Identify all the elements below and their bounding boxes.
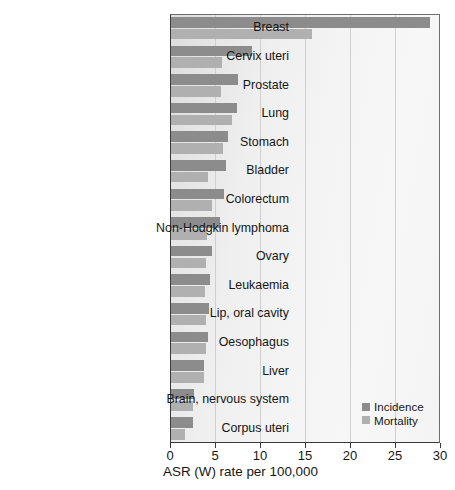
bar-mortality — [170, 372, 204, 383]
bar-group — [170, 43, 440, 72]
category-label: Brain, nervous system — [166, 393, 289, 406]
category-label: Breast — [253, 21, 289, 34]
category-label: Stomach — [240, 136, 289, 149]
bar-mortality — [170, 143, 223, 154]
legend-swatch-mortality — [362, 416, 370, 424]
bar-mortality — [170, 258, 206, 269]
x-tick-label: 15 — [285, 448, 325, 463]
bar-incidence — [170, 131, 228, 142]
bar-mortality — [170, 57, 222, 68]
legend-item-mortality: Mortality — [362, 414, 424, 428]
x-tick-label: 10 — [240, 448, 280, 463]
bar-mortality — [170, 315, 206, 326]
legend-label-mortality: Mortality — [374, 414, 418, 428]
bar-mortality — [170, 29, 312, 40]
bar-mortality — [170, 429, 185, 440]
bar-group — [170, 271, 440, 300]
bar-incidence — [170, 360, 204, 371]
category-label: Ovary — [256, 250, 289, 263]
x-tick-label: 20 — [330, 448, 370, 463]
bar-group — [170, 157, 440, 186]
x-tick-label: 30 — [420, 448, 455, 463]
category-label: Cervix uteri — [226, 50, 289, 63]
category-label: Corpus uteri — [222, 422, 290, 435]
bar-incidence — [170, 417, 193, 428]
x-tick-label: 25 — [375, 448, 415, 463]
bar-group — [170, 357, 440, 386]
x-tick-label: 0 — [150, 448, 190, 463]
legend-swatch-incidence — [362, 403, 370, 411]
category-label: Leukaemia — [228, 279, 289, 292]
chart-legend: Incidence Mortality — [362, 400, 424, 427]
bar-group — [170, 71, 440, 100]
bar-incidence — [170, 160, 226, 171]
category-label: Liver — [262, 365, 289, 378]
bar-incidence — [170, 17, 430, 28]
category-label: Prostate — [243, 79, 289, 92]
bar-incidence — [170, 332, 208, 343]
bar-incidence — [170, 274, 210, 285]
bar-incidence — [170, 246, 212, 257]
bar-incidence — [170, 303, 209, 314]
category-label: Bladder — [246, 164, 289, 177]
category-label: Lung — [261, 107, 289, 120]
chart-figure: BreastCervix uteriProstateLungStomachBla… — [0, 0, 455, 490]
category-label: Oesophagus — [219, 336, 289, 349]
bar-mortality — [170, 343, 206, 354]
legend-label-incidence: Incidence — [374, 400, 424, 414]
bar-group — [170, 186, 440, 215]
category-label: Colorectum — [226, 193, 289, 206]
bar-mortality — [170, 286, 205, 297]
bar-group — [170, 329, 440, 358]
bar-group — [170, 128, 440, 157]
bar-incidence — [170, 74, 238, 85]
bar-group — [170, 14, 440, 43]
legend-item-incidence: Incidence — [362, 400, 424, 414]
bar-mortality — [170, 115, 232, 126]
bar-mortality — [170, 86, 221, 97]
bar-group — [170, 243, 440, 272]
x-tick-label: 5 — [195, 448, 235, 463]
category-label: Non-Hodgkin lymphoma — [156, 222, 289, 235]
x-axis-title: ASR (W) rate per 100,000 — [0, 464, 455, 479]
bar-mortality — [170, 172, 208, 183]
bar-group — [170, 100, 440, 129]
category-label: Lip, oral cavity — [210, 307, 289, 320]
bar-incidence — [170, 103, 237, 114]
bar-incidence — [170, 189, 224, 200]
bar-mortality — [170, 200, 212, 211]
